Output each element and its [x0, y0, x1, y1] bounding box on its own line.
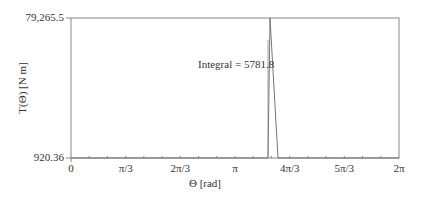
y-axis-title: T(Θ) [N m]: [16, 62, 28, 113]
x-tick-4pi-3: 4π/3: [280, 162, 300, 174]
plot-frame: [71, 18, 399, 158]
x-tick-2pi: 2π: [393, 162, 404, 174]
x-axis-title: Θ [rad]: [189, 177, 221, 189]
x-tick-2pi-3: 2π/3: [170, 162, 190, 174]
x-tick-0: 0: [68, 162, 74, 174]
data-series-line: [71, 18, 399, 158]
y-tick-max: 79,265.5: [0, 11, 64, 23]
x-tick-5pi-3: 5π/3: [334, 162, 354, 174]
plot-area: [0, 0, 422, 199]
x-tick-pi: π: [232, 162, 238, 174]
y-tick-min: 920.36: [0, 151, 64, 163]
integral-annotation: Integral = 5781.8: [198, 58, 274, 70]
x-tick-pi-3: π/3: [119, 162, 133, 174]
